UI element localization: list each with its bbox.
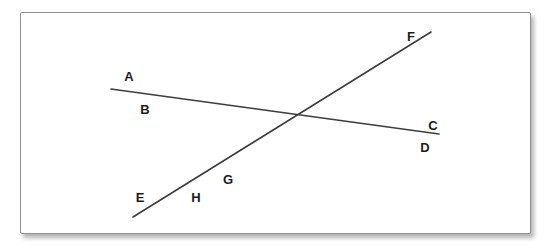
point-label-e: E <box>136 191 145 204</box>
point-label-b: B <box>140 103 149 116</box>
figure-stage: A B C D E F G H <box>0 0 551 251</box>
point-label-h: H <box>191 191 200 204</box>
point-label-d: D <box>420 141 429 154</box>
point-label-g: G <box>223 173 233 186</box>
diagram-panel <box>20 12 531 234</box>
point-label-f: F <box>407 30 415 43</box>
point-label-c: C <box>428 119 437 132</box>
point-label-a: A <box>124 70 133 83</box>
